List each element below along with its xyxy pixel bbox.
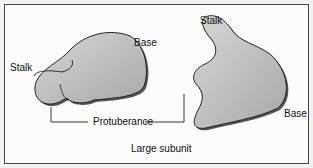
left-subunit-shape xyxy=(34,32,148,106)
left-stalk-label: Stalk xyxy=(10,62,32,73)
left-base-label: Base xyxy=(134,37,157,48)
protuberance-label: Protuberance xyxy=(93,116,153,127)
right-base-label: Base xyxy=(284,108,307,119)
right-stalk-label: Stalk xyxy=(200,15,222,26)
diagram-caption: Large subunit xyxy=(131,143,192,154)
right-subunit-shape xyxy=(194,16,289,131)
